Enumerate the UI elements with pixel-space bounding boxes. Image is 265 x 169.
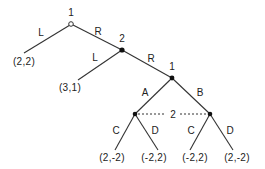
decision-node-1-icon [170, 76, 175, 81]
payoff-n5-C: (-2,2) [182, 152, 208, 163]
decision-node-2b-icon [208, 112, 213, 117]
action-label-root-R: R [94, 26, 101, 37]
payoff-n4-C: (2,-2) [99, 152, 125, 163]
action-label-n2-L: L [92, 52, 98, 63]
payoff-n5-D: (2,-2) [224, 152, 250, 163]
action-label-n3-B: B [197, 87, 204, 98]
info-set-player-label: 2 [170, 109, 176, 120]
game-tree: 2 1 2 1 L R L R A B C D C D (2,2) (3,1) … [0, 0, 265, 169]
player-label-n3: 1 [169, 61, 175, 72]
decision-node-2-icon [119, 47, 124, 52]
edge-root-L [24, 25, 70, 53]
action-label-n5-C: C [187, 125, 194, 136]
payoff-n4-D: (-2,2) [141, 152, 167, 163]
action-label-n4-C: C [112, 125, 119, 136]
edge-n3-B [172, 78, 210, 114]
root-node-icon [69, 22, 74, 27]
player-label-root: 1 [68, 7, 74, 18]
payoff-root-L: (2,2) [13, 56, 35, 67]
decision-node-2a-icon [133, 112, 138, 117]
action-label-n2-R: R [147, 53, 154, 64]
action-label-root-L: L [38, 27, 44, 38]
payoff-n2-L: (3,1) [59, 82, 81, 93]
edge-n2-L [78, 50, 122, 80]
action-label-n4-D: D [151, 125, 158, 136]
action-label-n5-D: D [226, 125, 233, 136]
action-label-n3-A: A [142, 87, 149, 98]
edge-n3-A [135, 78, 172, 114]
player-label-n2: 2 [119, 33, 125, 44]
